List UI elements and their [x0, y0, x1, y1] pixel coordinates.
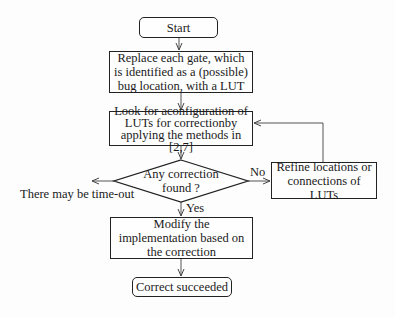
start-node: Start [139, 17, 218, 38]
modify-node: Modify the implementation based on the c… [110, 217, 253, 259]
look-configuration-node: Look for aconfiguration of LUTs for corr… [109, 111, 253, 146]
connector-lines [0, 0, 395, 317]
look-configuration-label: Look for aconfiguration of LUTs for corr… [112, 105, 250, 153]
end-label: Correct succeeded [136, 280, 228, 294]
replace-gate-label: Replace each gate, which is identified a… [113, 51, 249, 93]
replace-gate-node: Replace each gate, which is identified a… [109, 51, 253, 93]
decision-label: Any correction found ? [140, 167, 222, 195]
start-label: Start [167, 21, 191, 35]
refine-node: Refine locations or connections of LUTs [271, 162, 377, 199]
refine-label: Refine locations or connections of LUTs [274, 160, 374, 202]
end-node: Correct succeeded [132, 277, 232, 297]
timeout-label: There may be time-out [20, 187, 134, 201]
modify-label: Modify the implementation based on the c… [117, 217, 246, 259]
yes-edge-label: Yes [186, 201, 204, 215]
no-edge-label: No [250, 165, 265, 179]
